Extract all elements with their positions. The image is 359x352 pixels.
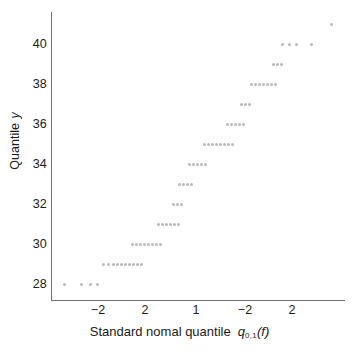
x-axis-symbol-suffix: (f) bbox=[257, 324, 269, 339]
data-point bbox=[147, 243, 150, 246]
data-point bbox=[180, 203, 183, 206]
data-point bbox=[186, 183, 189, 186]
data-point bbox=[330, 23, 333, 26]
data-point bbox=[182, 183, 185, 186]
data-point bbox=[143, 243, 146, 246]
data-point bbox=[136, 263, 139, 266]
data-point bbox=[240, 103, 243, 106]
data-point bbox=[132, 263, 135, 266]
y-tick-label: 36 bbox=[1, 117, 47, 131]
data-point bbox=[124, 263, 127, 266]
data-point bbox=[161, 223, 164, 226]
data-point bbox=[274, 83, 277, 86]
data-point bbox=[211, 143, 214, 146]
x-axis-symbol-q: q bbox=[238, 324, 245, 339]
data-point bbox=[96, 283, 99, 286]
data-point bbox=[207, 143, 210, 146]
data-point bbox=[295, 43, 298, 46]
data-point bbox=[227, 143, 230, 146]
data-point bbox=[258, 83, 261, 86]
data-point bbox=[151, 243, 154, 246]
data-point bbox=[276, 63, 279, 66]
data-point bbox=[219, 143, 222, 146]
data-point bbox=[190, 183, 193, 186]
data-point bbox=[172, 203, 175, 206]
x-axis-line bbox=[51, 300, 345, 301]
y-tick-label: 34 bbox=[1, 157, 47, 171]
qq-plot-figure: Quantile y 28303234363840 −221−22 Standa… bbox=[0, 0, 359, 352]
data-point bbox=[244, 103, 247, 106]
data-point bbox=[120, 263, 123, 266]
data-point bbox=[238, 123, 241, 126]
data-point bbox=[135, 243, 138, 246]
data-point bbox=[196, 163, 199, 166]
data-point bbox=[178, 183, 181, 186]
data-point bbox=[250, 83, 253, 86]
data-point bbox=[173, 223, 176, 226]
y-tick-label: 40 bbox=[1, 37, 47, 51]
data-point bbox=[131, 243, 134, 246]
data-point bbox=[234, 123, 237, 126]
x-axis-title-text: Standard nomal quantile bbox=[90, 324, 231, 339]
data-point bbox=[281, 43, 284, 46]
data-point bbox=[116, 263, 119, 266]
data-point bbox=[262, 83, 265, 86]
data-point bbox=[157, 223, 160, 226]
data-point bbox=[140, 263, 143, 266]
data-point bbox=[128, 263, 131, 266]
x-tick-label: 2 bbox=[141, 303, 148, 317]
data-point bbox=[107, 263, 110, 266]
x-axis-title: Standard nomal quantileq0,1(f) bbox=[0, 324, 359, 340]
y-axis-ticks: 28303234363840 bbox=[0, 0, 47, 352]
data-point bbox=[310, 43, 313, 46]
y-tick-label: 28 bbox=[1, 277, 47, 291]
data-point bbox=[203, 143, 206, 146]
x-axis-symbol-subscript: 0,1 bbox=[245, 331, 257, 340]
data-point bbox=[80, 283, 83, 286]
data-point bbox=[177, 223, 180, 226]
data-point bbox=[176, 203, 179, 206]
x-tick-label: 1 bbox=[192, 303, 199, 317]
data-point bbox=[159, 243, 162, 246]
data-point bbox=[248, 103, 251, 106]
x-axis-title-symbol: q0,1(f) bbox=[231, 324, 270, 339]
data-point bbox=[112, 263, 115, 266]
y-tick-label: 38 bbox=[1, 77, 47, 91]
y-tick-label: 32 bbox=[1, 197, 47, 211]
data-point bbox=[231, 143, 234, 146]
data-point bbox=[204, 163, 207, 166]
data-point bbox=[280, 63, 283, 66]
plot-data-area bbox=[51, 12, 345, 300]
data-point bbox=[63, 283, 66, 286]
data-point bbox=[200, 163, 203, 166]
y-tick-label: 30 bbox=[1, 237, 47, 251]
data-point bbox=[223, 143, 226, 146]
x-tick-label: −2 bbox=[91, 303, 106, 317]
data-point bbox=[192, 163, 195, 166]
data-point bbox=[89, 283, 92, 286]
data-point bbox=[288, 43, 291, 46]
data-point bbox=[270, 83, 273, 86]
data-point bbox=[215, 143, 218, 146]
x-tick-label: 2 bbox=[288, 303, 295, 317]
data-point bbox=[102, 263, 105, 266]
data-point bbox=[188, 163, 191, 166]
data-point bbox=[155, 243, 158, 246]
data-point bbox=[242, 123, 245, 126]
data-point bbox=[165, 223, 168, 226]
data-point bbox=[226, 123, 229, 126]
data-point bbox=[266, 83, 269, 86]
data-point bbox=[272, 63, 275, 66]
data-point bbox=[139, 243, 142, 246]
data-point bbox=[230, 123, 233, 126]
data-point bbox=[254, 83, 257, 86]
data-point bbox=[169, 223, 172, 226]
x-tick-label: −2 bbox=[238, 303, 253, 317]
